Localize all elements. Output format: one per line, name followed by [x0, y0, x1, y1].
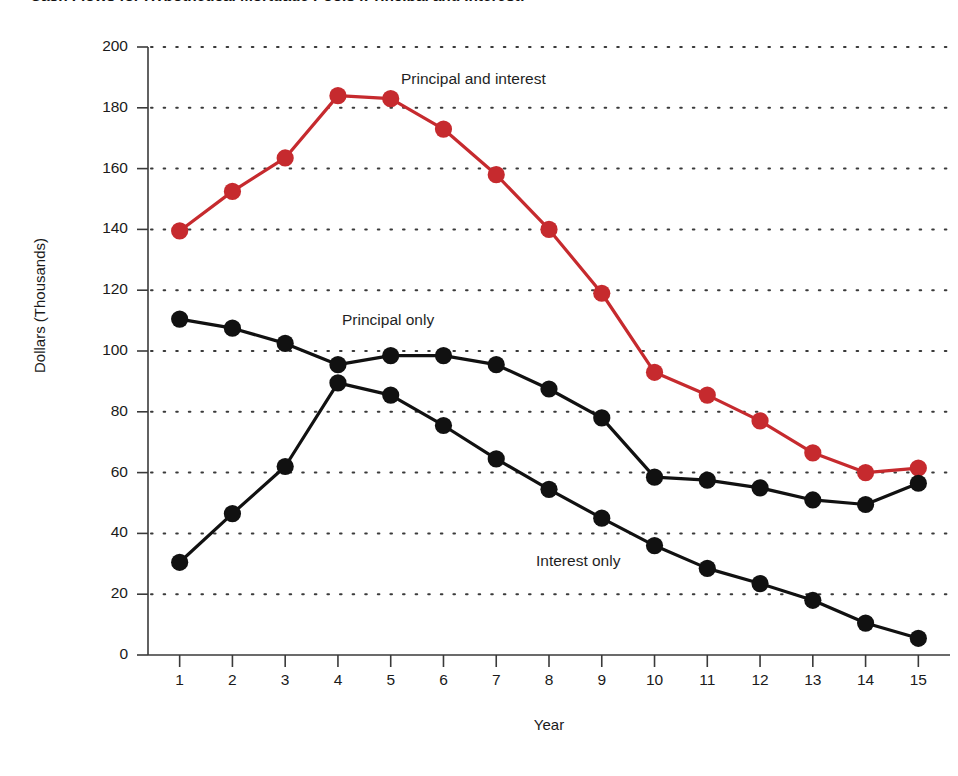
y-tick-label: 40	[68, 523, 128, 541]
data-point	[224, 320, 241, 337]
chart-plot-area	[0, 0, 958, 776]
data-point	[435, 120, 452, 137]
x-tick-label: 14	[846, 671, 886, 689]
data-point	[751, 575, 768, 592]
data-point	[857, 614, 874, 631]
data-point	[171, 310, 188, 327]
data-point	[224, 183, 241, 200]
x-tick-label: 5	[371, 671, 411, 689]
data-point	[329, 374, 346, 391]
data-point	[382, 347, 399, 364]
data-point	[382, 90, 399, 107]
data-point	[593, 285, 610, 302]
x-tick-label: 10	[635, 671, 675, 689]
data-point	[593, 409, 610, 426]
y-tick-label: 100	[68, 341, 128, 359]
data-point	[910, 630, 927, 647]
data-point	[224, 505, 241, 522]
data-point	[699, 472, 716, 489]
data-point	[171, 222, 188, 239]
data-point	[751, 479, 768, 496]
data-point	[277, 149, 294, 166]
data-point	[646, 364, 663, 381]
y-tick-marks-group	[137, 47, 148, 655]
data-point	[857, 496, 874, 513]
x-tick-label: 2	[212, 671, 252, 689]
y-tick-label: 20	[68, 584, 128, 602]
data-point	[488, 356, 505, 373]
x-tick-label: 1	[160, 671, 200, 689]
y-tick-label: 0	[68, 645, 128, 663]
data-point	[593, 510, 610, 527]
data-point	[488, 450, 505, 467]
data-point	[171, 554, 188, 571]
x-tick-label: 15	[898, 671, 938, 689]
data-point	[646, 537, 663, 554]
x-tick-label: 8	[529, 671, 569, 689]
x-tick-label: 13	[793, 671, 833, 689]
data-point	[435, 417, 452, 434]
x-tick-label: 9	[582, 671, 622, 689]
x-tick-label: 11	[687, 671, 727, 689]
y-tick-label: 120	[68, 280, 128, 298]
x-tick-label: 3	[265, 671, 305, 689]
series-label-principal-and-interest: Principal and interest	[401, 70, 546, 88]
data-point	[382, 386, 399, 403]
y-tick-label: 140	[68, 219, 128, 237]
data-point	[540, 380, 557, 397]
data-point	[804, 491, 821, 508]
data-point	[277, 335, 294, 352]
x-tick-label: 7	[476, 671, 516, 689]
data-point	[277, 458, 294, 475]
data-point	[910, 459, 927, 476]
gridlines-group	[151, 47, 950, 594]
x-tick-label: 12	[740, 671, 780, 689]
data-point	[857, 464, 874, 481]
series-label-principal-only: Principal only	[342, 311, 434, 329]
x-tick-label: 6	[423, 671, 463, 689]
y-tick-label: 80	[68, 402, 128, 420]
data-point	[699, 560, 716, 577]
data-point	[435, 347, 452, 364]
y-tick-label: 200	[68, 37, 128, 55]
data-point	[646, 469, 663, 486]
data-point	[329, 87, 346, 104]
data-point	[751, 412, 768, 429]
y-tick-label: 180	[68, 98, 128, 116]
data-point	[540, 221, 557, 238]
data-point	[540, 481, 557, 498]
y-tick-label: 60	[68, 463, 128, 481]
data-point	[699, 386, 716, 403]
data-point	[804, 444, 821, 461]
data-point	[910, 475, 927, 492]
data-point	[329, 356, 346, 373]
x-tick-marks-group	[180, 655, 919, 667]
data-point	[804, 592, 821, 609]
data-point	[488, 166, 505, 183]
x-tick-label: 4	[318, 671, 358, 689]
y-tick-label: 160	[68, 159, 128, 177]
chart-figure: Cash Flows for Hypothetical Mortgage Poo…	[0, 0, 958, 776]
series-label-interest-only: Interest only	[536, 552, 620, 570]
